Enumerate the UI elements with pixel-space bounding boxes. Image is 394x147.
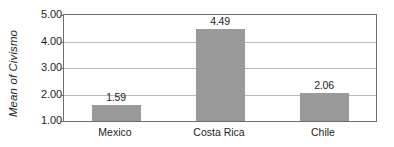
x-axis-label: Chile bbox=[273, 126, 373, 138]
bar-value-label: 2.06 bbox=[294, 79, 354, 91]
plot-area: 1.594.492.06 bbox=[63, 14, 377, 122]
x-axis-label: Costa Rica bbox=[169, 126, 269, 138]
x-axis-category-labels: MexicoCosta RicaChile bbox=[63, 124, 377, 144]
y-axis-tick-mark bbox=[60, 42, 64, 43]
y-axis-tick-mark bbox=[60, 95, 64, 96]
y-axis-tick-labels: 5.004.003.002.001.00 bbox=[26, 0, 62, 147]
bar bbox=[300, 93, 349, 121]
y-axis-tick-mark bbox=[60, 15, 64, 16]
bar-chart: Mean of Civismo 5.004.003.002.001.00 1.5… bbox=[0, 0, 394, 147]
y-axis-tick-label: 1.00 bbox=[26, 114, 62, 126]
bar bbox=[196, 29, 245, 121]
bar-value-label: 4.49 bbox=[190, 15, 250, 27]
bar bbox=[92, 105, 141, 121]
y-axis-tick-mark bbox=[60, 121, 64, 122]
y-axis-tick-label: 4.00 bbox=[26, 35, 62, 47]
y-axis-tick-mark bbox=[60, 68, 64, 69]
y-axis-tick-label: 3.00 bbox=[26, 61, 62, 73]
y-axis-tick-label: 5.00 bbox=[26, 8, 62, 20]
y-axis-tick-label: 2.00 bbox=[26, 88, 62, 100]
bar-value-label: 1.59 bbox=[86, 91, 146, 103]
y-axis-title: Mean of Civismo bbox=[0, 0, 26, 147]
x-axis-label: Mexico bbox=[65, 126, 165, 138]
